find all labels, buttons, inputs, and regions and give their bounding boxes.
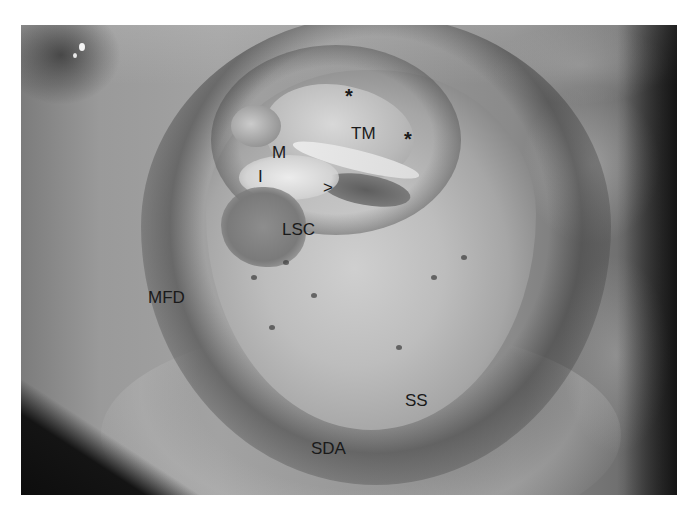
arrowhead-marker: >: [323, 179, 333, 196]
right-edge-shadow: [617, 25, 677, 495]
tissue-speck: [251, 275, 257, 280]
lower-bright-band: [101, 325, 621, 495]
label-tm: TM: [351, 125, 376, 142]
tissue-speck: [311, 293, 317, 298]
tissue-speck: [283, 260, 289, 265]
light-glint: [73, 53, 77, 58]
label-lsc: LSC: [282, 221, 315, 238]
tissue-speck: [461, 255, 467, 260]
mottled-tissue: [491, 25, 671, 105]
label-sda: SDA: [311, 440, 346, 457]
photo-top-band: [21, 25, 677, 85]
ossicle-region: [231, 105, 281, 147]
label-i: I: [258, 168, 263, 185]
asterisk-marker: *: [345, 86, 353, 106]
light-glint: [79, 43, 85, 51]
tissue-speck: [431, 275, 437, 280]
mottled-tissue: [561, 255, 671, 455]
tympanic-membrane: [259, 77, 419, 192]
middle-ear-gap: [319, 167, 413, 212]
asterisk-marker: *: [404, 129, 412, 149]
label-ss: SS: [405, 392, 428, 409]
label-m: M: [272, 144, 286, 161]
mottled-tissue: [521, 85, 661, 245]
label-mfd: MFD: [148, 289, 185, 306]
tissue-speck: [396, 345, 402, 350]
cavity-dark-ring: [141, 25, 611, 485]
tissue-speck: [269, 325, 275, 330]
middle-ear-rim: [211, 45, 461, 235]
dark-corner-shadow: [21, 25, 121, 105]
